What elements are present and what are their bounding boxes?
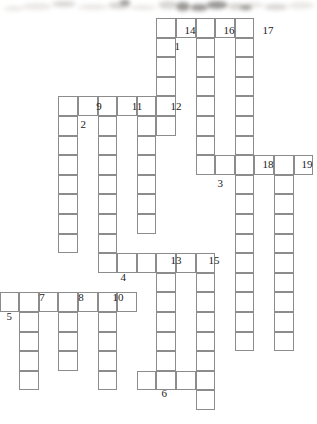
crossword-cell[interactable] xyxy=(235,194,255,214)
crossword-cell[interactable] xyxy=(235,175,255,195)
crossword-cell[interactable] xyxy=(117,253,137,273)
crossword-cell[interactable] xyxy=(196,390,216,410)
crossword-cell[interactable] xyxy=(156,18,176,38)
crossword-cell[interactable] xyxy=(98,136,118,156)
scan-artifact-band xyxy=(0,0,317,16)
crossword-cell[interactable] xyxy=(156,332,176,352)
crossword-cell[interactable] xyxy=(274,253,294,273)
crossword-cell[interactable] xyxy=(19,332,39,352)
crossword-cell[interactable] xyxy=(274,175,294,195)
crossword-cell[interactable] xyxy=(19,351,39,371)
crossword-cell[interactable] xyxy=(58,136,78,156)
crossword-cell[interactable] xyxy=(156,77,176,97)
crossword-cell[interactable] xyxy=(274,332,294,352)
crossword-cell[interactable] xyxy=(156,312,176,332)
scan-smudge xyxy=(120,0,130,5)
crossword-cell[interactable] xyxy=(156,57,176,77)
scan-smudge xyxy=(22,3,52,10)
crossword-cell[interactable] xyxy=(196,273,216,293)
crossword-cell[interactable] xyxy=(137,175,157,195)
crossword-cell[interactable] xyxy=(235,96,255,116)
scan-smudge xyxy=(52,1,76,7)
crossword-cell[interactable] xyxy=(196,57,216,77)
crossword-cell[interactable] xyxy=(196,96,216,116)
crossword-cell[interactable] xyxy=(58,234,78,254)
crossword-cell[interactable] xyxy=(235,38,255,58)
crossword-cell[interactable] xyxy=(137,253,157,273)
crossword-cell[interactable] xyxy=(274,273,294,293)
crossword-cell[interactable] xyxy=(98,155,118,175)
crossword-cell[interactable] xyxy=(196,77,216,97)
crossword-cell[interactable] xyxy=(235,136,255,156)
scan-smudge xyxy=(206,1,228,9)
crossword-cell[interactable] xyxy=(98,214,118,234)
crossword-cell[interactable] xyxy=(235,77,255,97)
crossword-cell[interactable] xyxy=(274,234,294,254)
crossword-cell[interactable] xyxy=(137,116,157,136)
clue-number: 17 xyxy=(258,25,278,36)
crossword-cell[interactable] xyxy=(137,136,157,156)
clue-number: 16 xyxy=(219,25,239,36)
crossword-cell[interactable] xyxy=(98,175,118,195)
clue-number: 3 xyxy=(207,178,223,189)
crossword-cell[interactable] xyxy=(196,155,216,175)
crossword-cell[interactable] xyxy=(274,292,294,312)
crossword-cell[interactable] xyxy=(58,312,78,332)
crossword-cell[interactable] xyxy=(156,273,176,293)
crossword-cell[interactable] xyxy=(196,136,216,156)
crossword-cell[interactable] xyxy=(58,351,78,371)
crossword-cell[interactable] xyxy=(58,214,78,234)
scan-smudge xyxy=(158,1,178,9)
crossword-cell[interactable] xyxy=(235,234,255,254)
crossword-cell[interactable] xyxy=(235,332,255,352)
crossword-cell[interactable] xyxy=(19,312,39,332)
crossword-cell[interactable] xyxy=(196,351,216,371)
crossword-cell[interactable] xyxy=(176,371,196,391)
crossword-cell[interactable] xyxy=(98,371,118,391)
crossword-cell[interactable] xyxy=(215,155,235,175)
crossword-cell[interactable] xyxy=(137,155,157,175)
crossword-cell[interactable] xyxy=(274,312,294,332)
crossword-cell[interactable] xyxy=(19,371,39,391)
crossword-cell[interactable] xyxy=(235,312,255,332)
crossword-cell[interactable] xyxy=(98,194,118,214)
crossword-cell[interactable] xyxy=(98,312,118,332)
crossword-cell[interactable] xyxy=(235,57,255,77)
scan-smudge xyxy=(4,6,24,11)
crossword-cell[interactable] xyxy=(156,351,176,371)
clue-number: 1 xyxy=(164,41,180,52)
crossword-cell[interactable] xyxy=(235,116,255,136)
crossword-cell[interactable] xyxy=(58,175,78,195)
clue-number: 13 xyxy=(166,255,186,266)
crossword-cell[interactable] xyxy=(235,292,255,312)
crossword-cell[interactable] xyxy=(235,253,255,273)
crossword-cell[interactable] xyxy=(235,214,255,234)
crossword-cell[interactable] xyxy=(137,194,157,214)
crossword-cell[interactable] xyxy=(98,116,118,136)
crossword-cell[interactable] xyxy=(156,116,176,136)
crossword-cell[interactable] xyxy=(58,194,78,214)
crossword-cell[interactable] xyxy=(196,332,216,352)
crossword-puzzle: 12345678910111213141516171819 xyxy=(0,0,317,424)
crossword-cell[interactable] xyxy=(156,292,176,312)
clue-number: 6 xyxy=(151,388,167,399)
crossword-cell[interactable] xyxy=(58,155,78,175)
crossword-cell[interactable] xyxy=(274,214,294,234)
crossword-cell[interactable] xyxy=(196,116,216,136)
crossword-cell[interactable] xyxy=(58,96,78,116)
crossword-cell[interactable] xyxy=(196,38,216,58)
crossword-cell[interactable] xyxy=(98,332,118,352)
crossword-cell[interactable] xyxy=(98,253,118,273)
crossword-cell[interactable] xyxy=(235,273,255,293)
crossword-cell[interactable] xyxy=(58,332,78,352)
crossword-cell[interactable] xyxy=(196,371,216,391)
crossword-cell[interactable] xyxy=(274,194,294,214)
clue-number: 18 xyxy=(258,159,278,170)
crossword-cell[interactable] xyxy=(137,214,157,234)
crossword-cell[interactable] xyxy=(98,234,118,254)
crossword-cell[interactable] xyxy=(98,351,118,371)
crossword-cell[interactable] xyxy=(196,312,216,332)
crossword-cell[interactable] xyxy=(196,292,216,312)
crossword-cell[interactable] xyxy=(235,155,255,175)
clue-number: 7 xyxy=(32,292,52,303)
